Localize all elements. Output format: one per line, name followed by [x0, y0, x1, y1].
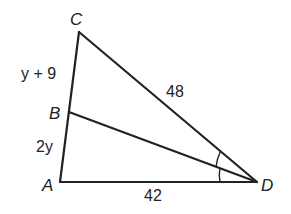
segment-label-ba: 2y [36, 138, 53, 155]
segment-label-cb: y + 9 [21, 65, 56, 82]
segment-ca [60, 32, 79, 182]
segment-label-cd: 48 [166, 83, 184, 100]
vertex-label-c: C [70, 10, 83, 29]
triangle-diagram: C B A D y + 9 2y 48 42 [0, 0, 291, 214]
segment-bd [69, 112, 257, 182]
angle-mark-bda [219, 168, 220, 182]
vertex-label-b: B [49, 104, 60, 123]
vertex-label-d: D [261, 176, 273, 195]
segment-label-ad: 42 [144, 187, 162, 204]
segment-cd [79, 32, 257, 182]
angle-mark-cdb [216, 151, 221, 167]
vertex-label-a: A [41, 176, 53, 195]
